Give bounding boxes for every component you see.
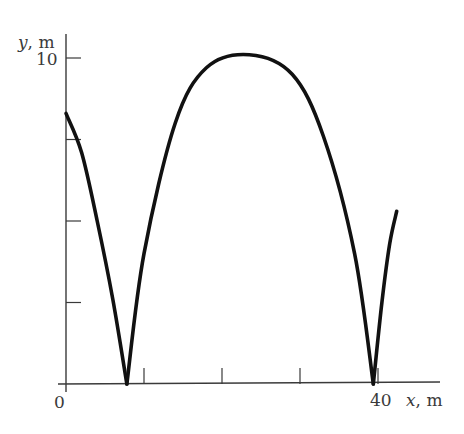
x-unit: , m [416,390,443,410]
x-tick-label-40: 40 [370,390,392,410]
origin-label: 0 [54,392,65,412]
x-var: x [406,390,416,410]
trajectory-curve [66,55,397,384]
trajectory-chart: y, m 10 0 40 x, m [0,0,464,434]
y-tick-label-10: 10 [36,49,58,69]
x-axis-label: x, m [406,390,443,410]
x-axis [58,382,440,384]
trajectory-segment [66,113,127,384]
x-ticks [144,368,378,384]
y-var: y [17,32,28,52]
trajectory-segment [127,55,373,384]
y-ticks [66,58,81,303]
trajectory-segment [373,211,396,384]
